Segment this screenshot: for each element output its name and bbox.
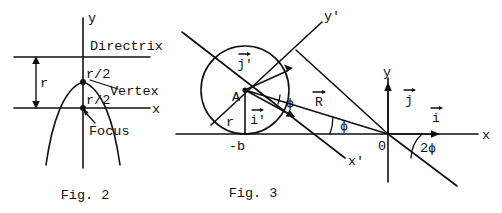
fig3-j-hat-label-group: j [404, 88, 416, 108]
fig3-neg-b-label: -b [229, 139, 245, 154]
fig3-origin-label: 0 [378, 139, 386, 154]
fig3-R-vector-label: R [315, 95, 323, 110]
fig2-half-radius-upper-label: r/2 [86, 67, 110, 82]
fig3-j-prime-label-overbar-arrowhead [247, 52, 251, 56]
fig3-i-prime-label-group: i' [250, 108, 266, 128]
fig3-i-hat-arrowhead [431, 130, 440, 138]
fig3-x-axis-label: x [482, 128, 490, 143]
fig3-j-prime-arrowhead [284, 64, 293, 71]
fig3-j-hat-label-overbar-arrowhead [412, 88, 416, 92]
fig2-directrix-label: Directrix [90, 39, 163, 54]
fig3-i-prime-label-overbar-arrowhead [260, 108, 264, 112]
fig3-i-prime-label: i' [250, 113, 266, 128]
figure-2-group: r y x Directrix r/2 r/2 Vertex Focus Fig… [14, 11, 163, 203]
fig3-i-hat-label-overbar-arrowhead [439, 106, 443, 110]
fig3-y-axis-label: y [383, 65, 391, 80]
fig3-R-label-overbar-arrowhead [322, 90, 326, 94]
fig3-phi-at-A-label: ϕ [286, 96, 294, 111]
fig3-phi-at-origin-label: ϕ [340, 119, 348, 134]
fig3-R-label-group: R [313, 90, 326, 110]
fig3-j-hat-arrowhead [384, 82, 392, 91]
fig3-x-prime-label: x' [348, 154, 364, 169]
fig3-i-hat-label-group: i [431, 106, 443, 126]
fig3-caption: Fig. 3 [229, 186, 278, 201]
fig3-radius-label: r [226, 115, 234, 130]
fig3-y-prime-axis [211, 22, 322, 125]
fig3-phi-arc-at-origin [330, 117, 333, 134]
fig3-y-prime-label: y' [324, 9, 340, 24]
fig2-half-radius-lower-label: r/2 [86, 93, 110, 108]
fig2-vertex-label: Vertex [110, 84, 159, 99]
fig3-i-hat-label: i [432, 111, 440, 126]
fig2-focus-label: Focus [89, 124, 130, 139]
fig2-radius-label: r [40, 76, 48, 91]
figures-svg: r y x Directrix r/2 r/2 Vertex Focus Fig… [0, 0, 502, 213]
figure-sheet: r y x Directrix r/2 r/2 Vertex Focus Fig… [0, 0, 502, 213]
fig3-two-phi-label: 2ϕ [420, 141, 436, 156]
fig3-j-hat-label: j [405, 93, 413, 108]
fig3-point-A-label: A [232, 90, 241, 105]
fig3-j-prime-label-group: j' [237, 52, 253, 72]
figure-3-group: x y y' x' A 0 -b r i j [176, 9, 490, 201]
fig2-caption: Fig. 2 [61, 188, 110, 203]
fig2-y-axis-label: y [88, 11, 96, 26]
fig2-x-axis-label: x [152, 102, 160, 117]
fig3-j-prime-label: j' [237, 57, 253, 72]
